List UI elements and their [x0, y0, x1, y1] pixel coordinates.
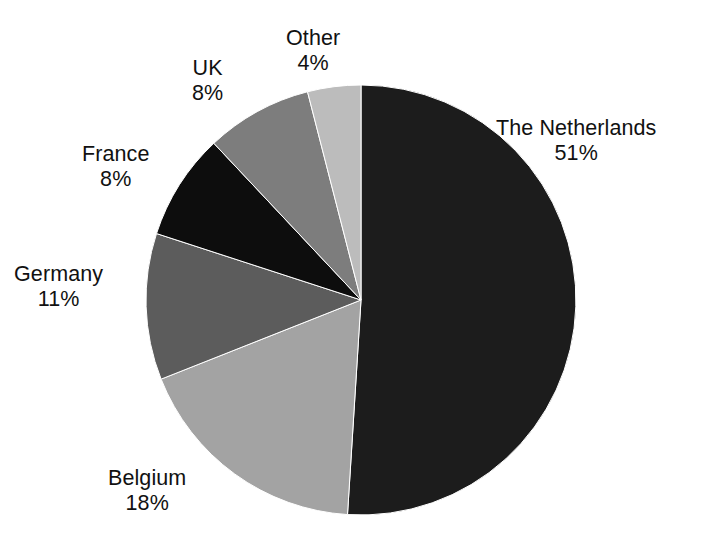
pie-label-the-netherlands: The Netherlands 51% [496, 116, 656, 166]
pie-label-value-belgium: 18% [108, 491, 186, 516]
pie-label-value-the-netherlands: 51% [496, 141, 656, 166]
pie-label-belgium: Belgium 18% [108, 466, 186, 516]
pie-chart: The Netherlands 51% Belgium 18% Germany … [0, 0, 715, 551]
pie-label-other: Other 4% [286, 26, 340, 76]
pie-label-name-the-netherlands: The Netherlands [496, 116, 656, 141]
pie-label-france: France 8% [82, 142, 150, 192]
pie-label-value-germany: 11% [14, 287, 103, 312]
pie-label-name-other: Other [286, 26, 340, 51]
pie-label-uk: UK 8% [192, 56, 223, 106]
pie-label-name-uk: UK [192, 56, 223, 81]
pie-label-value-other: 4% [286, 51, 340, 76]
pie-label-name-belgium: Belgium [108, 466, 186, 491]
pie-label-value-uk: 8% [192, 81, 223, 106]
pie-label-name-france: France [82, 142, 150, 167]
pie-label-germany: Germany 11% [14, 262, 103, 312]
pie-label-name-germany: Germany [14, 262, 103, 287]
pie-label-value-france: 8% [82, 167, 150, 192]
